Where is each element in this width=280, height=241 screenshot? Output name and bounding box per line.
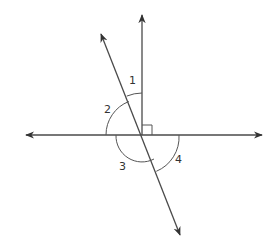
right-angle-marker (142, 125, 152, 135)
diagram-canvas: 1 2 3 4 (0, 0, 280, 241)
angle-diagram: 1 2 3 4 (0, 0, 280, 241)
angle-2-label: 2 (104, 103, 111, 116)
angle-4-label: 4 (175, 153, 182, 166)
angle-1-arc (127, 93, 142, 96)
angle-3-label: 3 (119, 160, 126, 173)
angle-1-label: 1 (129, 74, 136, 87)
angle-3-arc (116, 135, 154, 162)
